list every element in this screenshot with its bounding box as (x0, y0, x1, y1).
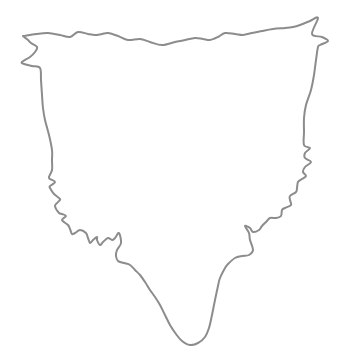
drawing-canvas (0, 0, 349, 346)
background (0, 0, 349, 346)
